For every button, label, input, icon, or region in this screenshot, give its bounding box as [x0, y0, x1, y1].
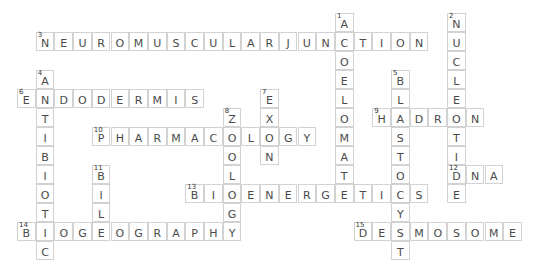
crossword-cell[interactable]: R	[298, 184, 317, 203]
crossword-cell[interactable]: S	[185, 89, 204, 108]
crossword-cell[interactable]: H	[111, 127, 130, 146]
crossword-cell[interactable]: 15D	[354, 222, 373, 241]
crossword-cell[interactable]: T	[36, 108, 55, 127]
crossword-cell[interactable]: S	[167, 32, 186, 51]
crossword-cell[interactable]: R	[260, 32, 279, 51]
crossword-cell[interactable]: N	[36, 89, 55, 108]
crossword-cell[interactable]: G	[129, 222, 148, 241]
crossword-cell[interactable]: E	[372, 222, 391, 241]
crossword-cell[interactable]: O	[428, 222, 447, 241]
crossword-cell[interactable]: S	[391, 127, 410, 146]
crossword-cell[interactable]: 13B	[185, 184, 204, 203]
crossword-cell[interactable]: R	[148, 127, 167, 146]
crossword-cell[interactable]: G	[316, 184, 335, 203]
crossword-cell[interactable]: G	[73, 222, 92, 241]
crossword-cell[interactable]: L	[223, 165, 242, 184]
crossword-cell[interactable]: T	[447, 127, 466, 146]
crossword-cell[interactable]: U	[204, 32, 223, 51]
crossword-cell[interactable]: M	[167, 127, 186, 146]
crossword-cell[interactable]: O	[391, 32, 410, 51]
crossword-cell[interactable]: J	[279, 32, 298, 51]
crossword-cell[interactable]: O	[223, 184, 242, 203]
crossword-cell[interactable]: A	[129, 127, 148, 146]
crossword-cell[interactable]: L	[391, 89, 410, 108]
crossword-cell[interactable]: M	[148, 89, 167, 108]
crossword-cell[interactable]: 8Z	[223, 108, 242, 127]
crossword-cell[interactable]: 12D	[447, 165, 466, 184]
crossword-cell[interactable]: E	[279, 184, 298, 203]
crossword-cell[interactable]: O	[54, 222, 73, 241]
crossword-cell[interactable]: O	[111, 222, 130, 241]
crossword-cell[interactable]: Y	[223, 222, 242, 241]
crossword-cell[interactable]: U	[148, 32, 167, 51]
crossword-cell[interactable]: O	[73, 89, 92, 108]
crossword-cell[interactable]: C	[335, 32, 354, 51]
crossword-cell[interactable]: Y	[391, 203, 410, 222]
crossword-cell[interactable]: O	[223, 146, 242, 165]
crossword-cell[interactable]: A	[391, 108, 410, 127]
crossword-cell[interactable]: P	[185, 222, 204, 241]
crossword-cell[interactable]: G	[279, 127, 298, 146]
crossword-cell[interactable]: E	[111, 89, 130, 108]
crossword-cell[interactable]: S	[410, 184, 429, 203]
crossword-cell[interactable]: I	[204, 184, 223, 203]
crossword-cell[interactable]: U	[298, 32, 317, 51]
crossword-cell[interactable]: A	[241, 32, 260, 51]
crossword-cell[interactable]: I	[372, 184, 391, 203]
crossword-cell[interactable]: T	[335, 165, 354, 184]
crossword-cell[interactable]: E	[447, 184, 466, 203]
crossword-cell[interactable]: B	[36, 146, 55, 165]
crossword-cell[interactable]: E	[92, 222, 111, 241]
crossword-cell[interactable]: N	[260, 184, 279, 203]
crossword-cell[interactable]: 2N	[447, 13, 466, 32]
crossword-cell[interactable]: R	[428, 108, 447, 127]
crossword-cell[interactable]: 6E	[17, 89, 36, 108]
crossword-cell[interactable]: A	[485, 165, 504, 184]
crossword-cell[interactable]: L	[223, 32, 242, 51]
crossword-cell[interactable]: C	[391, 184, 410, 203]
crossword-cell[interactable]: I	[36, 165, 55, 184]
crossword-cell[interactable]: 4A	[36, 70, 55, 89]
crossword-cell[interactable]: E	[241, 184, 260, 203]
crossword-cell[interactable]: N	[316, 32, 335, 51]
crossword-cell[interactable]: N	[410, 32, 429, 51]
crossword-cell[interactable]: E	[503, 222, 522, 241]
crossword-cell[interactable]: I	[92, 184, 111, 203]
crossword-cell[interactable]: E	[447, 89, 466, 108]
crossword-cell[interactable]: O	[223, 127, 242, 146]
crossword-cell[interactable]: E	[335, 184, 354, 203]
crossword-cell[interactable]: L	[335, 89, 354, 108]
crossword-cell[interactable]: T	[354, 184, 373, 203]
crossword-cell[interactable]: C	[36, 241, 55, 260]
crossword-cell[interactable]: A	[185, 127, 204, 146]
crossword-cell[interactable]: C	[185, 32, 204, 51]
crossword-cell[interactable]: C	[204, 127, 223, 146]
crossword-cell[interactable]: 10P	[92, 127, 111, 146]
crossword-cell[interactable]: R	[92, 32, 111, 51]
crossword-cell[interactable]: L	[92, 203, 111, 222]
crossword-cell[interactable]: 3N	[36, 32, 55, 51]
crossword-cell[interactable]: R	[129, 89, 148, 108]
crossword-cell[interactable]: I	[167, 89, 186, 108]
crossword-cell[interactable]: M	[335, 127, 354, 146]
crossword-cell[interactable]: O	[260, 127, 279, 146]
crossword-cell[interactable]: N	[466, 165, 485, 184]
crossword-cell[interactable]: G	[223, 203, 242, 222]
crossword-cell[interactable]: L	[241, 127, 260, 146]
crossword-cell[interactable]: A	[335, 146, 354, 165]
crossword-cell[interactable]: H	[204, 222, 223, 241]
crossword-cell[interactable]: N	[466, 108, 485, 127]
crossword-cell[interactable]: D	[54, 89, 73, 108]
crossword-cell[interactable]: E	[335, 70, 354, 89]
crossword-cell[interactable]: S	[447, 222, 466, 241]
crossword-cell[interactable]: 7E	[260, 89, 279, 108]
crossword-cell[interactable]: U	[447, 32, 466, 51]
crossword-cell[interactable]: T	[391, 146, 410, 165]
crossword-cell[interactable]: O	[335, 51, 354, 70]
crossword-cell[interactable]: I	[372, 32, 391, 51]
crossword-cell[interactable]: M	[485, 222, 504, 241]
crossword-cell[interactable]: 9H	[372, 108, 391, 127]
crossword-cell[interactable]: D	[410, 108, 429, 127]
crossword-cell[interactable]: 5B	[391, 70, 410, 89]
crossword-cell[interactable]: X	[260, 108, 279, 127]
